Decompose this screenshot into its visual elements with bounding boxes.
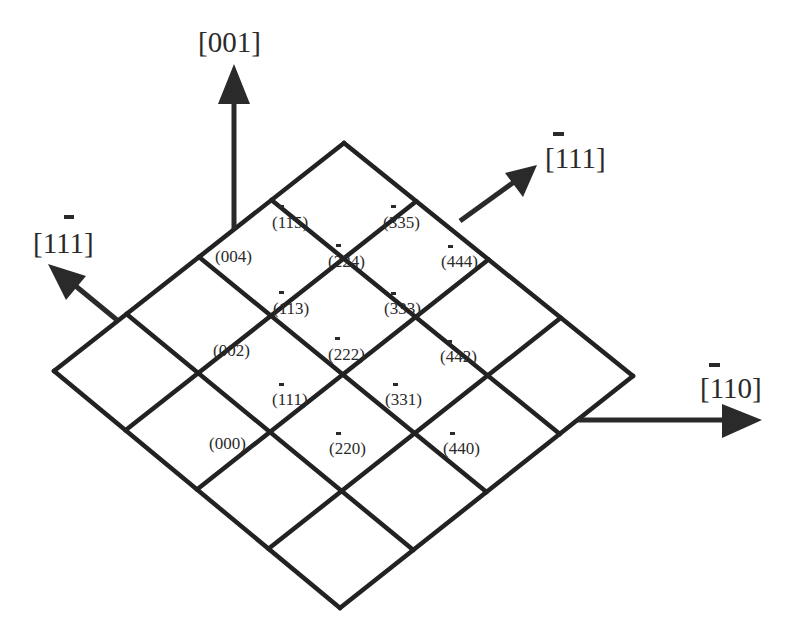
- overbar: [391, 205, 396, 208]
- svg-text:[111]: [111]: [545, 142, 606, 174]
- overbar: [336, 244, 341, 247]
- svg-text:[110]: [110]: [700, 372, 762, 404]
- axis-001-arrow: [218, 64, 250, 229]
- svg-text:(440): (440): [443, 439, 480, 458]
- svg-text:(000): (000): [209, 434, 246, 453]
- svg-text:[111]: [111]: [33, 227, 94, 259]
- point-label-115: (115): [272, 205, 308, 232]
- point-label-111: (111): [272, 383, 308, 409]
- overbar: [450, 432, 455, 435]
- point-label-004: (004): [215, 247, 252, 266]
- overbar: [393, 383, 398, 386]
- lattice-diagram: [001] [111] [111] [110] (115) (335) (004…: [0, 0, 804, 635]
- svg-text:[001]: [001]: [198, 26, 261, 58]
- point-label-331: (331): [385, 383, 422, 409]
- axis--111-arrow: [460, 165, 537, 221]
- svg-text:(442): (442): [440, 347, 477, 366]
- overbar: [448, 245, 453, 248]
- lattice-grid: [54, 143, 633, 608]
- arrow-head-icon: [48, 264, 86, 300]
- point-label-335: (335): [383, 205, 420, 232]
- svg-text:(331): (331): [385, 390, 422, 409]
- svg-text:(444): (444): [441, 252, 478, 271]
- overbar: [279, 383, 284, 386]
- overbar: [553, 132, 564, 136]
- point-label-220: (220): [329, 432, 366, 458]
- point-label-002: (002): [213, 341, 250, 360]
- overbar: [64, 215, 74, 219]
- grid-line: [126, 201, 417, 430]
- overbar: [447, 340, 452, 343]
- svg-text:(004): (004): [215, 247, 252, 266]
- overbar: [335, 337, 340, 340]
- svg-text:(222): (222): [328, 345, 365, 364]
- axis-label-001: [001]: [198, 26, 261, 58]
- svg-text:(224): (224): [328, 252, 365, 271]
- overbar: [336, 432, 341, 435]
- point-label-113: (113): [273, 291, 309, 318]
- svg-text:(335): (335): [383, 213, 420, 232]
- grid-line: [54, 143, 344, 371]
- svg-text:(111): (111): [272, 390, 308, 409]
- axis-label--110: [110]: [700, 363, 762, 404]
- axis-label--111: [111]: [545, 132, 606, 174]
- overbar: [391, 292, 396, 295]
- point-label-440: (440): [443, 432, 480, 458]
- axis-label-1-11: [111]: [33, 215, 94, 259]
- overbar: [279, 291, 284, 294]
- svg-text:(220): (220): [329, 439, 366, 458]
- svg-text:(113): (113): [273, 299, 309, 318]
- arrow-head-icon: [722, 404, 762, 438]
- overbar: [709, 363, 720, 367]
- axis--110-arrow: [577, 404, 762, 438]
- axis-1-11-arrow: [48, 264, 117, 320]
- arrow-head-icon: [505, 165, 537, 197]
- svg-text:(333): (333): [384, 299, 421, 318]
- arrow-head-icon: [218, 64, 250, 104]
- overbar: [279, 205, 284, 208]
- point-label-222: (222): [328, 337, 365, 364]
- point-label-000: (000): [209, 434, 246, 453]
- svg-text:(002): (002): [213, 341, 250, 360]
- svg-text:(115): (115): [272, 213, 308, 232]
